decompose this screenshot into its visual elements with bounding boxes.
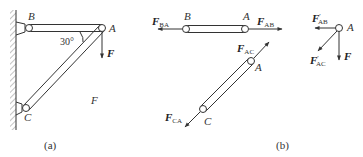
region-label: F [90, 94, 98, 106]
label-b-free: B [184, 10, 191, 22]
pin-a-rod-free [248, 58, 255, 65]
force-ac-label: FAC [236, 42, 254, 56]
label-b: B [28, 10, 35, 22]
label-c: C [24, 111, 32, 123]
force-ac-prime-arrow [318, 31, 337, 51]
pin-b [26, 25, 33, 32]
truss-diagram: 30° F B A C F (a) FBA B A FAB [0, 0, 363, 157]
force-ac-arrow [254, 42, 269, 58]
force-ac-prime-label: F′AC [309, 54, 326, 68]
force-ba-label: FBA [151, 15, 169, 29]
label-node-a: A [346, 21, 354, 33]
load-label: F [106, 47, 115, 59]
rod-ab [29, 25, 102, 32]
label-a-rod-free: A [254, 61, 262, 73]
rod-ab-free-body: FBA B A FAB [151, 10, 282, 33]
figure-a: 30° F B A C F (a) [10, 10, 116, 152]
node-a [336, 25, 343, 32]
angle-arc [80, 32, 83, 42]
node-load-label: F [343, 50, 352, 62]
caption-b: (b) [276, 139, 289, 152]
label-c-free: C [204, 115, 212, 127]
pin-a [99, 25, 106, 32]
force-ab-prime-label: F′AB [311, 12, 328, 26]
pin-b-free [183, 26, 190, 33]
force-ab-label: FAB [256, 15, 274, 29]
label-a-free: A [242, 10, 250, 22]
caption-a: (a) [44, 139, 57, 152]
pin-c-free [200, 106, 207, 113]
wall-hatching [10, 10, 16, 130]
support-b [16, 22, 25, 35]
support-c [16, 102, 22, 115]
rod-ca-free-body: FAC A FCA C [164, 42, 269, 127]
node-a-free-body: F′AB A F′AC F [309, 12, 354, 68]
label-a: A [108, 22, 116, 34]
force-ca-arrow [185, 112, 200, 127]
angle-label: 30° [60, 36, 74, 47]
figure-b: FBA B A FAB FAC A FCA C [151, 10, 354, 152]
force-ca-label: FCA [164, 111, 182, 125]
pin-a-free [242, 26, 249, 33]
